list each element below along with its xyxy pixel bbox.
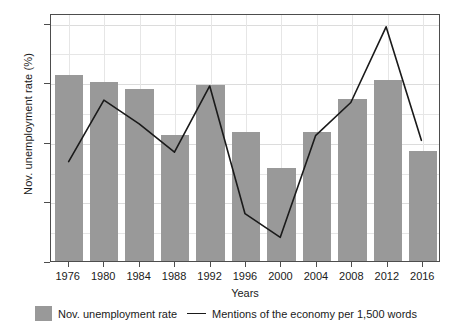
x-tick-mark bbox=[316, 262, 317, 267]
line-swatch-icon bbox=[187, 313, 206, 314]
legend-item-line: Mentions of the economy per 1,500 words bbox=[187, 308, 417, 320]
legend-label-bar: Nov. unemployment rate bbox=[58, 308, 177, 320]
x-tick-mark bbox=[245, 262, 246, 267]
x-tick-mark bbox=[174, 262, 175, 267]
x-tick-mark bbox=[68, 262, 69, 267]
x-tick-mark bbox=[210, 262, 211, 267]
y-axis-title: Nov. unemployment rate (%) bbox=[22, 4, 34, 244]
x-tick-mark bbox=[422, 262, 423, 267]
x-tick-mark bbox=[139, 262, 140, 267]
bar-swatch-icon bbox=[35, 306, 52, 321]
x-tick-mark bbox=[351, 262, 352, 267]
plot-area bbox=[50, 14, 440, 262]
x-tick-mark bbox=[103, 262, 104, 267]
line-path bbox=[69, 27, 422, 238]
legend-label-line: Mentions of the economy per 1,500 words bbox=[212, 308, 417, 320]
chart-legend: Nov. unemployment rate Mentions of the e… bbox=[0, 306, 452, 321]
x-axis-title: Years bbox=[50, 287, 440, 299]
x-tick-mark bbox=[280, 262, 281, 267]
chart-figure: Nov. unemployment rate (%) 0.02.55.07.51… bbox=[0, 0, 452, 330]
legend-item-bar: Nov. unemployment rate bbox=[35, 306, 177, 321]
x-tick-mark bbox=[387, 262, 388, 267]
x-tick-label: 2016 bbox=[398, 270, 446, 282]
line-series bbox=[51, 15, 439, 261]
y-tick-mark bbox=[44, 262, 50, 263]
